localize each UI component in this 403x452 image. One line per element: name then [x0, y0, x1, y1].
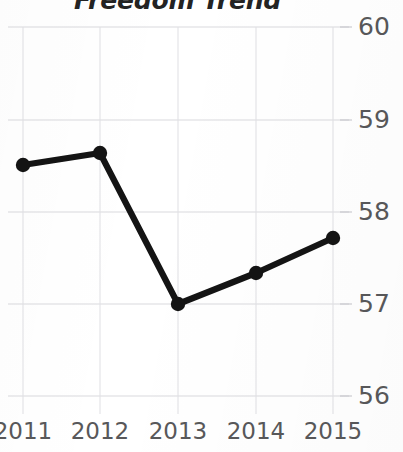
data-point-2011[interactable] — [16, 158, 30, 172]
vertical-gridlines — [23, 27, 333, 414]
x-tick-label-2013: 2013 — [138, 420, 218, 443]
data-point-2012[interactable] — [93, 146, 107, 160]
y-axis-ticks — [340, 27, 352, 396]
y-tick-label-60: 60 — [358, 14, 403, 39]
plot-area — [0, 0, 403, 452]
x-tick-label-2011: 2011 — [0, 420, 63, 443]
chart-page: Freedom Trend — [0, 0, 403, 452]
y-tick-label-56: 56 — [358, 383, 403, 408]
x-tick-label-2015: 2015 — [293, 420, 373, 443]
y-tick-label-57: 57 — [358, 291, 403, 316]
y-tick-label-58: 58 — [358, 199, 403, 224]
x-tick-label-2014: 2014 — [216, 420, 296, 443]
line-chart-svg — [0, 0, 403, 452]
y-tick-label-59: 59 — [358, 107, 403, 132]
data-point-2015[interactable] — [326, 231, 340, 245]
data-point-2014[interactable] — [249, 266, 263, 280]
x-tick-label-2012: 2012 — [60, 420, 140, 443]
data-point-2013[interactable] — [171, 297, 185, 311]
